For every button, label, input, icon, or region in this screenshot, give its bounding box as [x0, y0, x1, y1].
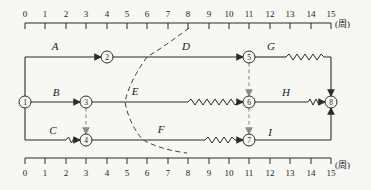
- top-ruler-unit-label: (周): [335, 19, 350, 29]
- top-ruler: 0 1 2 3 4 5 6 7 8 9 10 11 12 13 14 15 (周…: [23, 9, 350, 29]
- activity-H-float-wave: [308, 99, 321, 105]
- dummy-links: [86, 63, 249, 134]
- bottom-tick-label-2: 2: [64, 168, 69, 178]
- activity-G-float-wave: [286, 54, 331, 60]
- bottom-tick-label-12: 12: [266, 168, 275, 178]
- top-tick-label-5: 5: [125, 9, 130, 19]
- activity-F-float-wave: [205, 137, 235, 143]
- activity-I-label: I: [267, 126, 273, 138]
- bottom-tick-label-0: 0: [23, 168, 28, 178]
- node-6: 6: [243, 96, 255, 108]
- activity-A-label: A: [51, 40, 59, 52]
- bottom-tick-label-9: 9: [207, 168, 212, 178]
- node-8-number: 8: [329, 98, 333, 107]
- activity-C-float-wave: [66, 137, 77, 143]
- top-tick-label-0: 0: [23, 9, 28, 19]
- node-3: 3: [80, 96, 92, 108]
- node-7: 7: [243, 134, 255, 146]
- bottom-tick-label-3: 3: [84, 168, 89, 178]
- top-tick-label-9: 9: [207, 9, 212, 19]
- activity-G-label: G: [267, 40, 275, 52]
- node-7-number: 7: [247, 136, 251, 145]
- bottom-tick-label-5: 5: [125, 168, 130, 178]
- top-tick-label-6: 6: [145, 9, 150, 19]
- activity-E-float-wave: [188, 99, 238, 105]
- top-tick-label-11: 11: [245, 9, 254, 19]
- bottom-tick-label-14: 14: [307, 168, 317, 178]
- bottom-tick-label-13: 13: [286, 168, 296, 178]
- node-1: 1: [19, 96, 31, 108]
- top-tick-label-2: 2: [64, 9, 69, 19]
- top-tick-label-1: 1: [43, 9, 48, 19]
- top-tick-label-10: 10: [225, 9, 235, 19]
- top-tick-label-4: 4: [105, 9, 110, 19]
- node-5-number: 5: [247, 53, 251, 62]
- top-tick-label-15: 15: [327, 9, 337, 19]
- activity-B-label: B: [53, 86, 60, 98]
- top-tick-label-7: 7: [166, 9, 171, 19]
- top-tick-label-14: 14: [307, 9, 317, 19]
- activity-H-label: H: [281, 86, 291, 98]
- bottom-tick-label-11: 11: [245, 168, 254, 178]
- node-2: 2: [101, 51, 113, 63]
- top-tick-label-3: 3: [84, 9, 89, 19]
- bottom-tick-label-10: 10: [225, 168, 235, 178]
- bottom-tick-label-1: 1: [43, 168, 48, 178]
- activity-C-label: C: [49, 124, 57, 136]
- node-5: 5: [243, 51, 255, 63]
- node-8: 8: [325, 96, 337, 108]
- node-3-number: 3: [84, 98, 88, 107]
- bottom-ruler: 0 1 2 3 4 5 6 7 8 9 10 11 12 13 14 15 (周…: [23, 158, 350, 178]
- bottom-tick-label-6: 6: [145, 168, 150, 178]
- top-tick-label-13: 13: [286, 9, 296, 19]
- network-diagram-svg: 0 1 2 3 4 5 6 7 8 9 10 11 12 13 14 15 (周…: [0, 0, 371, 190]
- bottom-tick-label-7: 7: [166, 168, 171, 178]
- node-1-number: 1: [23, 98, 27, 107]
- nodes: 1 2 3 4 5 6 7 8: [19, 51, 337, 146]
- top-tick-label-12: 12: [266, 9, 275, 19]
- node-4: 4: [80, 134, 92, 146]
- activities: A B C D E F G H I: [25, 40, 331, 143]
- activity-E-label: E: [131, 85, 139, 97]
- bottom-tick-label-8: 8: [186, 168, 191, 178]
- bottom-ruler-unit-label: (周): [335, 160, 350, 170]
- node-6-number: 6: [247, 98, 251, 107]
- bottom-tick-label-4: 4: [105, 168, 110, 178]
- activity-D-label: D: [181, 40, 190, 52]
- node-4-number: 4: [84, 136, 88, 145]
- top-tick-label-8: 8: [186, 9, 191, 19]
- time-scaled-network-diagram: 0 1 2 3 4 5 6 7 8 9 10 11 12 13 14 15 (周…: [0, 0, 371, 190]
- node-2-number: 2: [105, 53, 109, 62]
- activity-F-label: F: [157, 123, 165, 135]
